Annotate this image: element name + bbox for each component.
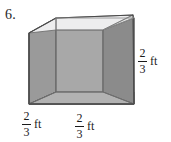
fraction-two-thirds: 2 3 bbox=[22, 110, 31, 138]
figure-page: 6. bbox=[0, 0, 171, 142]
dimension-label-bottom-front-width: 2 3 ft bbox=[75, 112, 94, 140]
fraction-two-thirds: 2 3 bbox=[138, 47, 147, 75]
dimension-label-right-height: 2 3 ft bbox=[138, 47, 157, 75]
fraction-denominator: 3 bbox=[23, 126, 31, 139]
cube-interior-right-face bbox=[103, 18, 134, 104]
unit-label: ft bbox=[87, 120, 94, 132]
fraction-numerator: 2 bbox=[139, 47, 147, 60]
fraction-numerator: 2 bbox=[76, 112, 84, 125]
fraction-denominator: 3 bbox=[76, 128, 84, 141]
fraction-denominator: 3 bbox=[139, 63, 147, 76]
dimension-label-bottom-left-depth: 2 3 ft bbox=[22, 110, 41, 138]
unit-label: ft bbox=[150, 55, 157, 67]
unit-label: ft bbox=[34, 118, 41, 130]
cube-interior-back-face bbox=[56, 30, 103, 92]
fraction-numerator: 2 bbox=[23, 110, 31, 123]
fraction-two-thirds: 2 3 bbox=[75, 112, 84, 140]
